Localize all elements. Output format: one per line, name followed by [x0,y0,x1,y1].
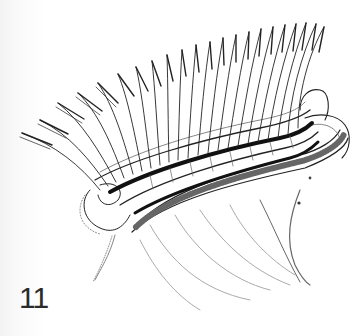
figure-number: 11 [19,283,48,313]
figure-plate: 11 [0,0,359,336]
gill-arch-illustration [0,0,359,336]
left-lobe [80,184,130,282]
